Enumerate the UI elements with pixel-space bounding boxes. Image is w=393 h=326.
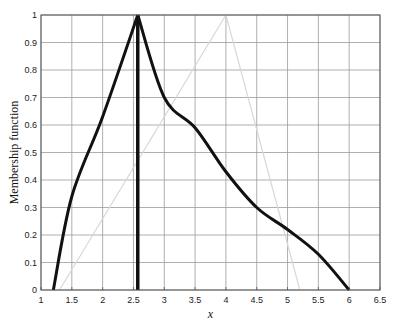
y-tick-label: 1: [32, 10, 37, 20]
y-axis-ticks: 00.10.20.30.40.50.60.70.80.91: [24, 10, 37, 295]
x-tick-label: 5: [285, 295, 290, 305]
y-tick-label: 0.6: [24, 120, 37, 130]
grid-lines: [41, 15, 380, 290]
y-axis-label: Membership function: [7, 101, 21, 205]
y-tick-label: 0.4: [24, 175, 37, 185]
x-tick-label: 2.5: [127, 295, 140, 305]
x-tick-label: 6: [347, 295, 352, 305]
membership-chart: 11.522.533.544.555.566.5 00.10.20.30.40.…: [0, 0, 393, 326]
x-tick-label: 1.5: [66, 295, 79, 305]
x-tick-label: 5.5: [312, 295, 325, 305]
x-axis-label: x: [207, 307, 214, 321]
y-tick-label: 0.9: [24, 38, 37, 48]
x-tick-label: 1: [38, 295, 43, 305]
x-tick-label: 4: [223, 295, 228, 305]
x-tick-label: 6.5: [374, 295, 387, 305]
x-tick-label: 3: [162, 295, 167, 305]
x-tick-label: 4.5: [250, 295, 263, 305]
y-tick-label: 0.1: [24, 258, 37, 268]
x-tick-label: 3.5: [189, 295, 202, 305]
x-tick-label: 2: [100, 295, 105, 305]
y-tick-label: 0: [32, 285, 37, 295]
y-tick-label: 0.7: [24, 93, 37, 103]
y-tick-label: 0.2: [24, 230, 37, 240]
y-tick-label: 0.3: [24, 203, 37, 213]
y-tick-label: 0.8: [24, 65, 37, 75]
y-tick-label: 0.5: [24, 148, 37, 158]
